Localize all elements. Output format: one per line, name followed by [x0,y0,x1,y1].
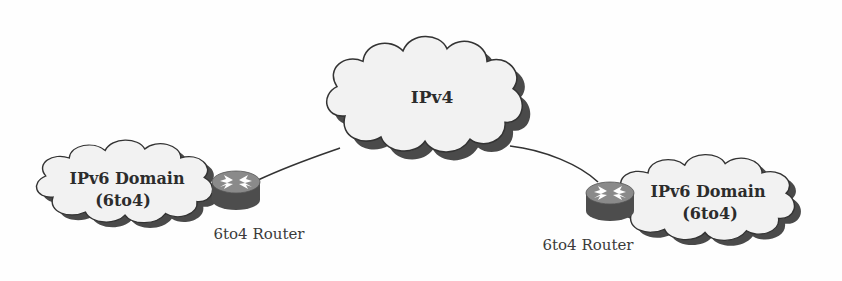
left-ipv6-cloud-label-line2: (6to4) [95,191,150,210]
right-router-icon [586,182,634,221]
right-ipv6-cloud-label-line2: (6to4) [682,204,737,223]
left-router-icon [212,171,260,210]
link-left-router-to-ipv4 [258,148,340,180]
right-router-label: 6to4 Router [543,236,635,254]
link-ipv4-to-right-router [510,146,598,182]
left-router-label: 6to4 Router [214,225,306,243]
ipv4-cloud-label: IPv4 [411,87,454,107]
left-ipv6-cloud-label-line1: IPv6 Domain [69,169,184,188]
network-diagram: IPv4 IPv6 Domain (6to4) IPv6 Domain (6to… [0,0,842,281]
right-ipv6-cloud-label-line1: IPv6 Domain [650,182,765,201]
